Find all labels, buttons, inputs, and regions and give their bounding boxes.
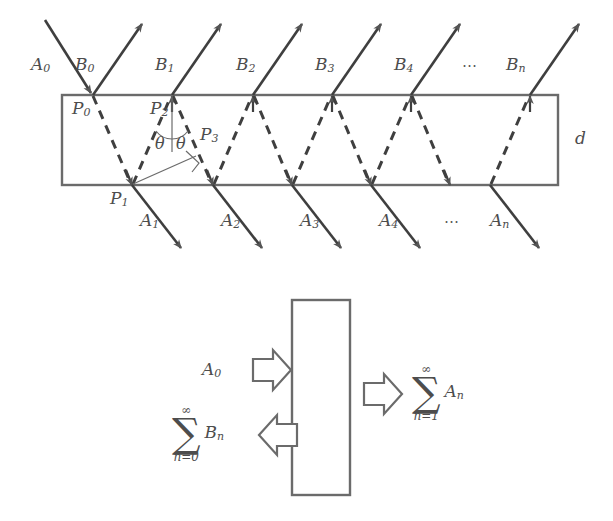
ellipsis-bottom: ⋯ — [444, 214, 460, 229]
transmitted-sum-term: An — [445, 381, 464, 404]
label-ray-B0: B0 — [75, 56, 95, 74]
transmitted-sum-expression: ∞ ∑ n=1 An — [412, 363, 464, 422]
label-ray-A2: A2 — [221, 212, 240, 230]
summary-slab-rectangle — [292, 300, 350, 495]
label-point-P2: P2 — [150, 100, 168, 118]
transmitted-sum-lower-limit: n=1 — [414, 410, 439, 422]
label-ray-Bn: Bn — [506, 56, 526, 74]
reflected-sum-lower-limit: n=0 — [174, 451, 199, 463]
label-ray-B1: B1 — [155, 56, 175, 74]
ellipsis-top: ⋯ — [462, 58, 478, 73]
reflected-sum-term: Bn — [205, 422, 225, 445]
perpendicular-construction — [133, 151, 199, 184]
transmitted-rays-group — [132, 185, 539, 248]
block-arrow-input-right — [253, 350, 291, 390]
label-input-A0: A0 — [202, 361, 221, 379]
slab-rectangle — [62, 95, 558, 185]
downward-arrowheads — [126, 170, 450, 185]
transmitted-sum-sigma: ∑ — [412, 374, 441, 411]
reflected-sum-sigma: ∑ — [172, 415, 201, 452]
label-angle-theta-right: θ — [176, 136, 186, 152]
label-ray-A3: A3 — [300, 212, 319, 230]
label-ray-A4: A4 — [379, 212, 398, 230]
label-angle-theta-left: θ — [155, 136, 165, 152]
label-ray-An: An — [490, 212, 509, 230]
label-ray-B3: B3 — [315, 56, 335, 74]
diagram-vector-layer — [0, 0, 613, 521]
reflected-sum-expression: ∞ ∑ n=0 Bn — [172, 404, 224, 463]
label-ray-A1: A1 — [140, 212, 159, 230]
label-ray-B4: B4 — [394, 56, 414, 74]
label-point-P1: P1 — [110, 190, 128, 208]
label-incident-A0: A0 — [31, 56, 50, 74]
label-point-P3: P3 — [200, 126, 218, 144]
label-ray-B2: B2 — [236, 56, 256, 74]
block-arrow-transmitted-right — [364, 374, 402, 414]
label-point-P0: P0 — [72, 100, 90, 118]
upward-arrowheads — [172, 96, 530, 112]
label-thickness-d: d — [575, 130, 586, 147]
figure-root: A0 B0 B1 B2 B3 B4 ⋯ Bn P0 P1 P2 P3 θ θ d… — [0, 0, 613, 521]
